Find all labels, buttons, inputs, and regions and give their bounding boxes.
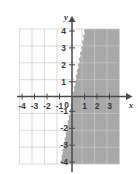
- x-axis-label: x: [128, 100, 134, 110]
- x-tick-label: -2: [43, 101, 51, 111]
- y-axis-label: y: [63, 12, 69, 22]
- y-tick-label: -3: [60, 140, 68, 150]
- x-tick-label: -3: [31, 101, 39, 111]
- y-tick-label: 1: [61, 77, 66, 87]
- y-tick-label: -2: [60, 123, 68, 133]
- x-tick-label: 3: [107, 101, 112, 111]
- y-tick-label: -4: [60, 157, 68, 167]
- coordinate-graph-figure: -4 -3 -2 -1 1 2 3 4 3 2 1 -1 -2 -3 -4 0 …: [0, 0, 140, 174]
- y-tick-label: 2: [61, 60, 66, 70]
- y-tick-label: 4: [61, 26, 66, 36]
- origin-label: 0: [64, 100, 69, 110]
- coordinate-plane-svg: -4 -3 -2 -1 1 2 3 4 3 2 1 -1 -2 -3 -4 0 …: [0, 0, 140, 174]
- x-tick-label: 1: [82, 101, 87, 111]
- y-tick-label: 3: [61, 43, 66, 53]
- x-tick-label: -4: [18, 101, 26, 111]
- x-tick-label: 2: [95, 101, 100, 111]
